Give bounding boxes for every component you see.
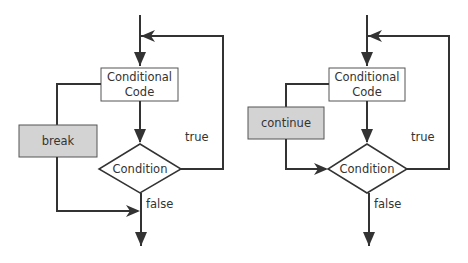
continue-to-condition-line: [286, 139, 326, 169]
conditional-code-line1: Conditional: [107, 70, 172, 84]
condition-label: Condition: [113, 162, 168, 176]
arrowhead-down-icon: [361, 129, 373, 143]
true-loop-line: [367, 36, 449, 169]
false-label: false: [374, 197, 401, 211]
arrowhead-down-icon: [134, 129, 146, 143]
arrowhead-down-icon: [361, 52, 373, 66]
continue-label: continue: [261, 116, 311, 130]
break-label: break: [42, 134, 75, 148]
branch-to-continue-line: [286, 84, 329, 107]
true-loop-line: [140, 36, 223, 169]
false-label: false: [146, 197, 173, 211]
continue-flowchart: Conditional Code continue Condition true…: [248, 15, 449, 246]
conditional-code-line2: Code: [125, 85, 154, 99]
arrowhead-down-icon: [135, 232, 147, 246]
branch-to-break-line: [57, 84, 101, 125]
flowchart-canvas: Conditional Code break Condition true fa…: [0, 0, 468, 263]
conditional-code-line1: Conditional: [334, 70, 399, 84]
true-label: true: [185, 130, 209, 144]
break-flowchart: Conditional Code break Condition true fa…: [19, 15, 223, 246]
arrowhead-down-icon: [134, 52, 146, 66]
true-label: true: [411, 130, 435, 144]
condition-label: Condition: [340, 162, 395, 176]
conditional-code-line2: Code: [352, 85, 381, 99]
arrowhead-down-icon: [363, 232, 375, 246]
